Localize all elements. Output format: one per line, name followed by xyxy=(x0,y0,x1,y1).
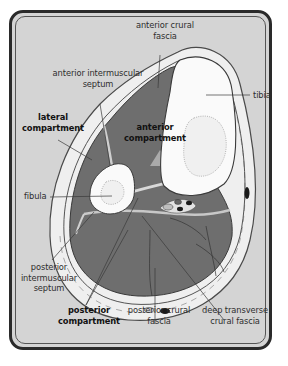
label-tibia: tibia xyxy=(253,90,271,101)
label-fibula: fibula xyxy=(24,191,47,202)
label-posterior-compartment: posterior compartment xyxy=(54,305,124,326)
great-saphenous-vessel xyxy=(245,187,250,199)
label-anterior-crural-fascia: anterior crural fascia xyxy=(130,20,200,41)
label-anterior-compartment: anterior compartment xyxy=(120,122,190,143)
label-lateral-compartment: lateral compartment xyxy=(18,112,88,133)
label-posterior-crural-fascia: posterior crural fascia xyxy=(124,305,194,326)
label-posterior-intermuscular-septum: posterior intermuscular septum xyxy=(14,262,84,294)
label-deep-transverse-crural-fascia: deep transverse crural fascia xyxy=(198,305,272,326)
label-anterior-intermuscular-septum: anterior intermuscular septum xyxy=(50,68,146,89)
